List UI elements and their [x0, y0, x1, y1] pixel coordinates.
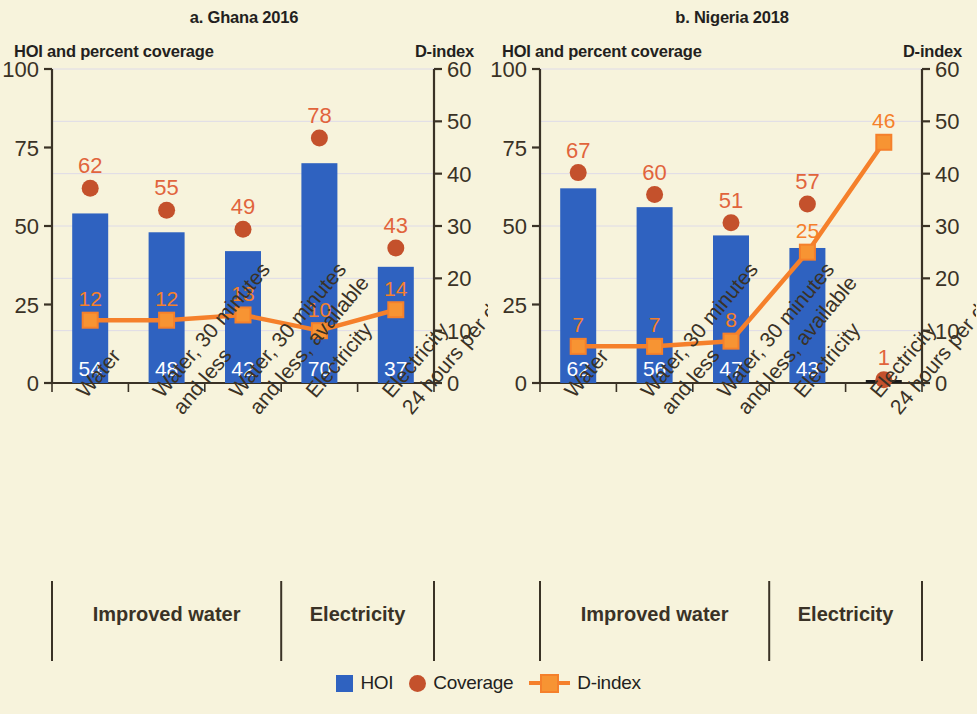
chart-legend: HOI Coverage D-index [0, 672, 977, 694]
coverage-value-label: 55 [154, 175, 178, 200]
y2-axis-tick-label: 20 [935, 266, 959, 291]
axis-titles: HOI and percent coverage D-index [0, 32, 488, 61]
dindex-value-label: 12 [79, 287, 102, 310]
coverage-value-label: 78 [307, 103, 331, 128]
coverage-dot [235, 221, 252, 238]
legend-item-dindex: D-index [529, 672, 640, 694]
coverage-value-label: 57 [795, 169, 819, 194]
y-axis-tick-label: 100 [2, 61, 39, 82]
y-axis-tick-label: 50 [503, 214, 527, 239]
coverage-dot [311, 130, 328, 147]
panel-title: a. Ghana 2016 [0, 0, 488, 32]
dindex-marker [159, 313, 174, 328]
dindex-marker [724, 334, 739, 349]
dindex-value-label: 14 [384, 277, 408, 300]
y2-axis-tick-label: 60 [447, 61, 471, 82]
chart-nigeria: 0255075100010203040506062564743778254667… [488, 61, 976, 679]
group-label: Improved water [93, 603, 241, 625]
group-label: Electricity [798, 603, 894, 625]
circle-icon [409, 675, 426, 692]
coverage-dot [646, 186, 663, 203]
y2-axis-tick-label: 40 [447, 162, 471, 187]
coverage-dot [82, 180, 99, 197]
dindex-marker [647, 339, 662, 354]
panel-ghana: a. Ghana 2016 HOI and percent coverage D… [0, 0, 488, 670]
panel-nigeria: b. Nigeria 2018 HOI and percent coverage… [488, 0, 976, 670]
coverage-value-label: 43 [384, 213, 408, 238]
y2-axis-tick-label: 60 [935, 61, 959, 82]
coverage-dot [387, 239, 404, 256]
square-icon [336, 675, 353, 692]
dindex-marker [388, 302, 403, 317]
y-axis-tick-label: 50 [15, 214, 39, 239]
dindex-value-label: 7 [649, 313, 661, 336]
legend-label-hoi: HOI [360, 672, 393, 694]
legend-label-dindex: D-index [577, 672, 640, 694]
y2-axis-tick-label: 40 [935, 162, 959, 187]
y-axis-tick-label: 0 [515, 371, 527, 396]
dindex-value-label: 46 [872, 109, 895, 132]
y-axis-tick-label: 75 [503, 136, 527, 161]
group-label: Electricity [310, 603, 406, 625]
dindex-marker [83, 313, 98, 328]
chart-panels: a. Ghana 2016 HOI and percent coverage D… [0, 0, 977, 670]
coverage-value-label: 67 [566, 138, 590, 163]
y2-axis-tick-label: 50 [447, 109, 471, 134]
chart-ghana: 0255075100010203040506054484270371212131… [0, 61, 488, 679]
coverage-value-label: 60 [642, 160, 666, 185]
y2-axis-tick-label: 30 [447, 214, 471, 239]
right-axis-title: D-index [415, 42, 474, 61]
coverage-value-label: 49 [231, 194, 255, 219]
y2-axis-tick-label: 20 [447, 266, 471, 291]
y2-axis-tick-label: 30 [935, 214, 959, 239]
legend-item-hoi: HOI [336, 672, 393, 694]
coverage-dot [799, 196, 816, 213]
left-axis-title: HOI and percent coverage [14, 42, 214, 61]
line-marker-icon [529, 674, 570, 693]
right-axis-title: D-index [903, 42, 962, 61]
y-axis-tick-label: 0 [27, 371, 39, 396]
legend-item-coverage: Coverage [409, 672, 513, 694]
dindex-value-label: 7 [572, 313, 584, 336]
y-axis-tick-label: 25 [15, 293, 39, 318]
dindex-marker [876, 135, 891, 150]
legend-label-coverage: Coverage [433, 672, 513, 694]
y2-axis-tick-label: 50 [935, 109, 959, 134]
coverage-value-label: 51 [719, 188, 743, 213]
left-axis-title: HOI and percent coverage [502, 42, 702, 61]
dindex-marker [571, 339, 586, 354]
y-axis-tick-label: 75 [15, 136, 39, 161]
coverage-dot [570, 164, 587, 181]
axis-titles: HOI and percent coverage D-index [488, 32, 976, 61]
coverage-dot [723, 214, 740, 231]
coverage-dot [158, 202, 175, 219]
y-axis-tick-label: 25 [503, 293, 527, 318]
group-label: Improved water [581, 603, 729, 625]
dindex-value-label: 12 [155, 287, 178, 310]
y-axis-tick-label: 100 [490, 61, 527, 82]
panel-title: b. Nigeria 2018 [488, 0, 976, 32]
dindex-value-label: 25 [796, 219, 819, 242]
dindex-marker [800, 245, 815, 260]
coverage-value-label: 62 [78, 153, 102, 178]
